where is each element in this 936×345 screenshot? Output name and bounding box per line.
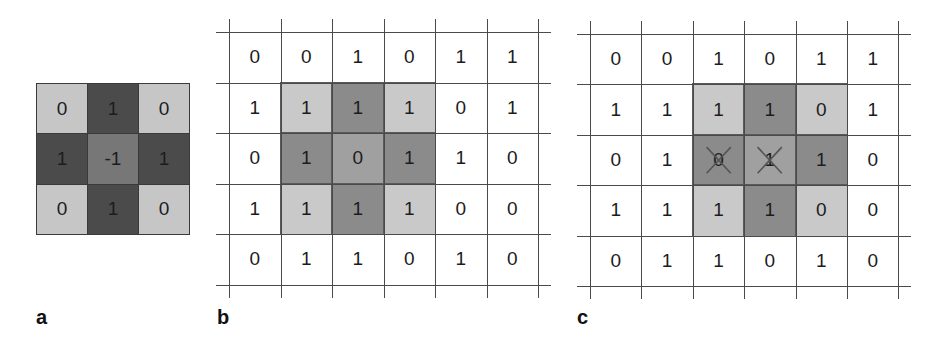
- cell-value: 1: [867, 48, 878, 70]
- cell-value: 1: [867, 99, 878, 121]
- grid-cell: 1: [590, 185, 641, 235]
- grid-cell: 1: [744, 84, 795, 134]
- grid-cell: 0: [744, 236, 795, 286]
- grid-cell: 1: [693, 236, 744, 286]
- grid-cell: 1: [796, 236, 847, 286]
- grid-cell: 0: [847, 185, 898, 235]
- grid-line-vertical: [744, 21, 745, 299]
- grid-cell: 0: [796, 84, 847, 134]
- grid-cell: 0: [590, 236, 641, 286]
- grid-cell: 0: [796, 185, 847, 235]
- grid-cell-crossed: 1: [744, 135, 795, 185]
- grid-cell: 1: [744, 185, 795, 235]
- cell-value: 1: [713, 250, 724, 272]
- grid-panel-c: 001011111101010110111100011010: [0, 0, 936, 345]
- cell-value: 1: [662, 199, 673, 221]
- cell-value: 0: [816, 199, 827, 221]
- grid-cell: 0: [590, 135, 641, 185]
- cell-value: 1: [816, 48, 827, 70]
- cell-value: 1: [765, 99, 776, 121]
- cell-value: 1: [765, 199, 776, 221]
- cell-value: 1: [662, 99, 673, 121]
- cell-value: 1: [610, 199, 621, 221]
- cell-value: 1: [713, 199, 724, 221]
- grid-cell: 1: [641, 185, 692, 235]
- cell-value: 0: [867, 250, 878, 272]
- grid-cell: 1: [590, 84, 641, 134]
- cell-value: 0: [610, 149, 621, 171]
- grid-cell: 0: [641, 34, 692, 84]
- grid-line-vertical: [898, 21, 899, 299]
- grid-line-vertical: [641, 21, 642, 299]
- grid-cell: 1: [847, 84, 898, 134]
- grid-line-vertical: [796, 21, 797, 299]
- cell-value: 1: [713, 48, 724, 70]
- grid-cell: 1: [693, 185, 744, 235]
- grid-cell: 1: [847, 34, 898, 84]
- cell-value: 0: [662, 48, 673, 70]
- cell-value: 0: [610, 250, 621, 272]
- cell-value: 0: [765, 48, 776, 70]
- grid-cell: 1: [796, 34, 847, 84]
- grid-cell: 1: [641, 84, 692, 134]
- grid-cell: 0: [847, 135, 898, 185]
- cell-value: 1: [765, 149, 776, 171]
- cell-value: 1: [662, 149, 673, 171]
- cell-value: 0: [867, 199, 878, 221]
- cell-value: 1: [816, 149, 827, 171]
- cell-value: 1: [662, 250, 673, 272]
- cell-value: 1: [816, 250, 827, 272]
- cell-value: 0: [816, 99, 827, 121]
- grid-line-vertical: [847, 21, 848, 299]
- grid-cell: 1: [641, 236, 692, 286]
- cell-value: 1: [713, 99, 724, 121]
- grid-cell: 1: [693, 84, 744, 134]
- panel-label-c: c: [577, 306, 588, 329]
- cell-value: 0: [713, 149, 724, 171]
- grid-cell: 0: [847, 236, 898, 286]
- cell-value: 0: [765, 250, 776, 272]
- grid-cell: 1: [641, 135, 692, 185]
- cell-value: 1: [610, 99, 621, 121]
- cell-value: 0: [610, 48, 621, 70]
- grid-cell: 0: [744, 34, 795, 84]
- grid-line-vertical: [693, 21, 694, 299]
- grid-cell-crossed: 0: [693, 135, 744, 185]
- grid-cell: 1: [796, 135, 847, 185]
- grid-cell: 0: [590, 34, 641, 84]
- grid-line-vertical: [590, 21, 591, 299]
- cell-value: 0: [867, 149, 878, 171]
- grid-cell: 1: [693, 34, 744, 84]
